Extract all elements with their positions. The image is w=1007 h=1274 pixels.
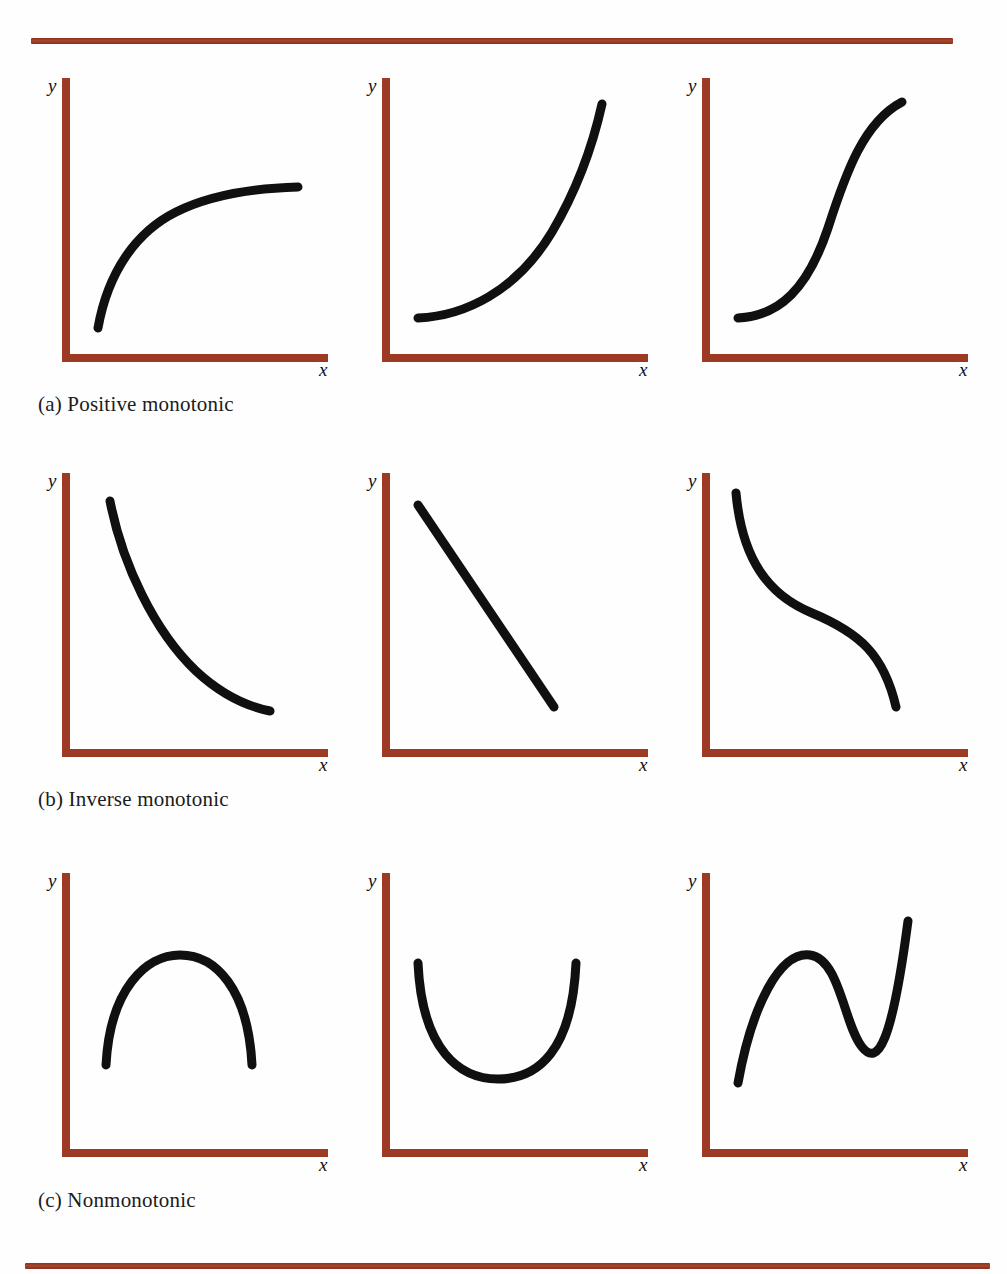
axis-label-y: y <box>688 871 696 890</box>
row-positive-monotonic: y x y x y x <box>0 60 1007 420</box>
panel-inverse-monotonic-linear: y x <box>356 455 666 775</box>
panel-positive-monotonic-convex: y x <box>356 60 666 380</box>
panel-nonmonotonic-u: y x <box>356 855 666 1175</box>
figure-sheet: y x y x y x (a) Pos <box>0 0 1007 1274</box>
axis-label-x: x <box>639 755 647 774</box>
curve-straight-negative-slope <box>418 505 554 707</box>
caption-row-c: (c) Nonmonotonic <box>38 1188 196 1213</box>
axis-spines <box>66 873 328 1153</box>
curve-logarithmic-rising <box>98 187 298 328</box>
plot-area <box>356 60 656 380</box>
top-divider-rule <box>31 38 953 44</box>
axis-label-y: y <box>368 471 376 490</box>
axis-label-y: y <box>688 76 696 95</box>
axis-label-y: y <box>368 871 376 890</box>
panel-positive-monotonic-sigmoid: y x <box>676 60 986 380</box>
panel-nonmonotonic-inverted-u: y x <box>36 855 346 1175</box>
axis-label-x: x <box>639 1155 647 1174</box>
axis-spines <box>66 78 328 358</box>
curve-exponential-decay <box>110 501 270 711</box>
axis-spines <box>706 473 968 753</box>
axis-label-x: x <box>959 755 967 774</box>
axis-label-x: x <box>319 360 327 379</box>
axis-label-x: x <box>319 1155 327 1174</box>
axis-label-x: x <box>319 755 327 774</box>
curve-s-curve-rising <box>738 102 902 318</box>
curve-reverse-s-curve <box>736 493 896 707</box>
row-nonmonotonic: y x y x y x <box>0 855 1007 1235</box>
axis-label-x: x <box>959 360 967 379</box>
axis-label-x: x <box>959 1155 967 1174</box>
plot-area <box>356 855 656 1175</box>
plot-area <box>676 855 976 1175</box>
axis-spines <box>706 873 968 1153</box>
caption-row-b: (b) Inverse monotonic <box>38 787 229 812</box>
plot-area <box>356 455 656 775</box>
panel-nonmonotonic-cubic: y x <box>676 855 986 1175</box>
curve-exponential-rising <box>418 104 602 318</box>
plot-area <box>676 455 976 775</box>
bottom-divider-rule <box>25 1263 990 1269</box>
axis-label-y: y <box>688 471 696 490</box>
row-inverse-monotonic: y x y x y x <box>0 455 1007 815</box>
plot-area <box>676 60 976 380</box>
axis-label-x: x <box>639 360 647 379</box>
panel-positive-monotonic-concave: y x <box>36 60 346 380</box>
plot-area <box>36 455 336 775</box>
curve-cubic-wave <box>738 921 908 1083</box>
axis-label-y: y <box>48 871 56 890</box>
axis-label-y: y <box>48 471 56 490</box>
caption-row-a: (a) Positive monotonic <box>38 392 234 417</box>
curve-u-shape <box>418 963 576 1079</box>
plot-area <box>36 855 336 1175</box>
axis-label-y: y <box>368 76 376 95</box>
panel-inverse-monotonic-sigmoid: y x <box>676 455 986 775</box>
plot-area <box>36 60 336 380</box>
axis-spines <box>66 473 328 753</box>
panel-inverse-monotonic-convex: y x <box>36 455 346 775</box>
axis-label-y: y <box>48 76 56 95</box>
curve-inverted-u-arch <box>106 955 252 1065</box>
